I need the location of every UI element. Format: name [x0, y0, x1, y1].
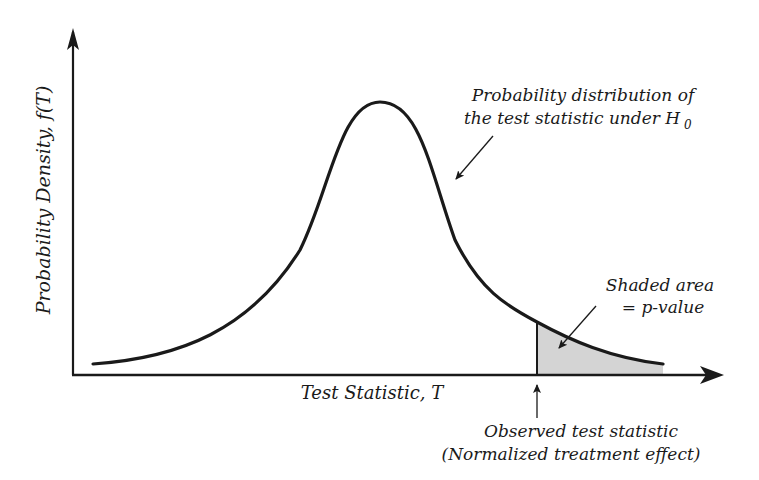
p-value-diagram: Probability Density, f(T) Test Statistic…: [0, 0, 759, 480]
curve-annotation-subscript: 0: [684, 118, 692, 132]
x-axis-label: Test Statistic, T: [301, 382, 445, 403]
shade-annotation-line-2: = p-value: [622, 297, 704, 317]
y-axis-label: Probability Density, f(T): [32, 86, 54, 316]
curve-annotation-arrow: [456, 136, 493, 179]
curve-annotation-line-1: Probability distribution of: [471, 85, 697, 105]
observed-annotation-line-1: Observed test statistic: [484, 421, 678, 441]
shade-annotation-line-1: Shaded area: [606, 275, 714, 295]
observed-annotation-line-2: (Normalized treatment effect): [442, 444, 701, 464]
curve-annotation-line-2: the test statistic under H: [464, 108, 681, 128]
distribution-curve: [93, 102, 663, 364]
